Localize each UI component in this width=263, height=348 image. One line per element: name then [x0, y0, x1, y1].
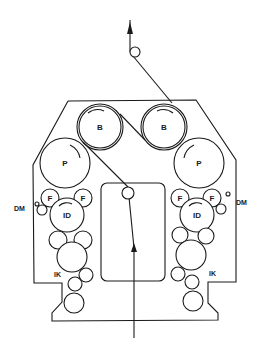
plate-cylinder-left: P — [40, 138, 90, 188]
center-guide-roller — [122, 187, 134, 199]
svg-text:ID: ID — [193, 211, 201, 220]
label-plate-right: P — [196, 159, 202, 168]
label-dampening-left: DM — [14, 205, 25, 212]
label-inking-left: IK — [54, 271, 61, 278]
ink-roller-right-d — [185, 275, 199, 289]
ink-drum-left — [57, 242, 87, 272]
center-opening — [101, 183, 165, 281]
ink-roller-right-b — [198, 228, 214, 244]
svg-text:F: F — [178, 194, 183, 203]
ink-fountain-roller-right — [183, 291, 203, 311]
dampening-fountain-right — [226, 192, 230, 196]
label-dampening-right: DM — [236, 199, 247, 206]
left-roller-train: F F ID — [35, 189, 93, 313]
top-guide-roller — [130, 47, 140, 57]
web-exit-arrow-icon — [127, 22, 133, 34]
svg-text:F: F — [210, 194, 215, 203]
web-outfeed-line — [133, 56, 172, 103]
label-inking-right: IK — [209, 270, 216, 277]
svg-text:F: F — [48, 194, 53, 203]
ink-drum-right — [176, 240, 206, 270]
svg-text:ID: ID — [63, 211, 71, 220]
label-blanket-right: B — [161, 123, 167, 132]
blanket-cylinder-left: B — [77, 104, 123, 150]
plate-cylinder-right: P — [174, 138, 224, 188]
dampening-fountain-left — [35, 202, 39, 206]
dampening-roller-left — [37, 205, 47, 215]
svg-text:F: F — [81, 194, 86, 203]
press-diagram: B B P P F F ID DM IK F — [0, 0, 263, 348]
dampening-roller-right — [216, 204, 226, 214]
label-blanket-left: B — [97, 123, 103, 132]
ink-fountain-roller-left — [64, 293, 84, 313]
ink-roller-left-d — [68, 277, 82, 291]
label-plate-left: P — [62, 159, 68, 168]
blanket-cylinder-right: B — [141, 104, 187, 150]
ink-roller-right-c — [171, 267, 185, 281]
right-roller-train: F F ID — [171, 189, 230, 311]
web-path — [83, 20, 172, 338]
